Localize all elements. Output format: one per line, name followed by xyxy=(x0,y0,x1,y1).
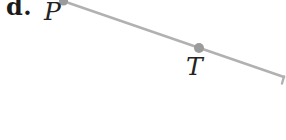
point-label-t: T xyxy=(186,54,203,79)
line-through-p-t xyxy=(63,1,284,77)
point-label-p: P xyxy=(44,0,61,24)
geometry-figure: d. P T xyxy=(0,0,286,140)
exercise-part-label: d. xyxy=(6,0,32,20)
line-diagram xyxy=(0,0,286,140)
